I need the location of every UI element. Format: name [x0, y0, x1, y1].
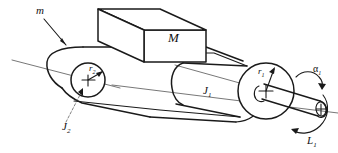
belt-mass-leader — [44, 19, 66, 45]
driven-pulley-inertia-label: J2 — [62, 120, 71, 135]
diagram-canvas: m M J1 J2 r1 r2 α1 L1 — [0, 0, 338, 153]
angular-acceleration-arc — [296, 72, 326, 90]
applied-torque-label: L1 — [306, 134, 317, 149]
inertia-J2-leader — [66, 88, 83, 122]
angular-acceleration-label: α1 — [313, 63, 321, 76]
block-mass-label: M — [167, 30, 180, 45]
belt-mass-label: m — [36, 4, 44, 16]
driver-pulley-J1 — [171, 63, 294, 119]
mechanical-diagram: m M J1 J2 r1 r2 α1 L1 — [0, 0, 338, 153]
torque-arc — [291, 95, 328, 134]
block-M — [98, 9, 206, 62]
